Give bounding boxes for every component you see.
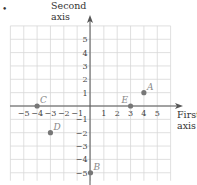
- coordinate-plane: • Second axis First axis −5−4−3−2−112345…: [0, 0, 197, 185]
- point-e-dot: [128, 103, 133, 108]
- x-tick-label: −4: [31, 109, 43, 118]
- y-tick-label: 2: [82, 75, 87, 84]
- x-tick-labels: −5−4−3−2−112345: [18, 109, 160, 118]
- x-tick-label: 5: [155, 109, 160, 118]
- x-tick-label: 4: [141, 109, 146, 118]
- y-tick-label: 3: [82, 62, 87, 71]
- plotted-points: ABCDE: [35, 82, 154, 176]
- y-tick-label: −2: [76, 129, 88, 138]
- point-b-dot: [88, 170, 93, 175]
- second-axis-title-line1: Second: [51, 0, 86, 11]
- x-tick-label: −5: [18, 109, 30, 118]
- x-tick-label: 1: [101, 109, 106, 118]
- point-e-label: E: [121, 95, 129, 105]
- second-axis-title-line2: axis: [51, 11, 70, 22]
- x-tick-label: 2: [115, 109, 120, 118]
- point-a-label: A: [146, 82, 154, 92]
- x-tick-label: 3: [128, 109, 133, 118]
- x-tick-label: −2: [58, 109, 70, 118]
- y-tick-label: −3: [76, 142, 88, 151]
- y-tick-label: 4: [82, 49, 87, 58]
- point-c-dot: [35, 103, 40, 108]
- y-tick-label: 5: [82, 35, 87, 44]
- first-axis-title-line2: axis: [177, 120, 196, 131]
- y-tick-label: −1: [76, 115, 88, 124]
- point-b-label: B: [93, 162, 101, 172]
- point-d-label: D: [52, 122, 60, 132]
- y-tick-label: −5: [76, 169, 88, 178]
- x-tick-label: −3: [45, 109, 57, 118]
- bullet-mark: •: [2, 4, 7, 14]
- grid: [10, 26, 170, 181]
- y-tick-label: −4: [76, 155, 88, 164]
- point-c-label: C: [40, 95, 47, 105]
- point-a-dot: [141, 90, 146, 95]
- first-axis-title-line1: First: [177, 109, 197, 120]
- point-d-dot: [48, 130, 53, 135]
- y-tick-label: 1: [82, 89, 87, 98]
